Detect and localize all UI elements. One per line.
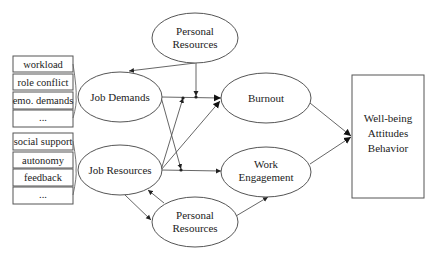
- node-job-demands: Job Demands: [78, 72, 162, 122]
- edge-job-resources-to-pr-bottom: [125, 195, 151, 220]
- resource-item-box: ...: [13, 187, 73, 204]
- demand-item-box: role conflict: [13, 74, 73, 90]
- node-personal-resources-bottom: Personal Resources: [152, 197, 238, 247]
- node-label: Personal: [176, 209, 214, 221]
- demand-item-label: role conflict: [17, 77, 68, 88]
- node-label: Burnout: [248, 92, 284, 104]
- resource-item-label: feedback: [24, 172, 63, 183]
- demand-item-box: ...: [13, 110, 73, 127]
- resource-item-label: ...: [39, 189, 47, 200]
- node-work-engagement: Work Engagement: [221, 147, 311, 197]
- node-burnout: Burnout: [221, 73, 311, 123]
- demand-item-label: workload: [23, 59, 63, 70]
- node-outcomes: Well-being Attitudes Behavior: [352, 75, 424, 198]
- edge-job-resources-to-work-engagement: [161, 170, 221, 171]
- node-job-resources: Job Resources: [78, 145, 162, 195]
- demand-item-box: workload: [13, 56, 73, 72]
- job-resources-items: social support autonomy feedback ...: [13, 133, 76, 204]
- node-label: Resources: [172, 38, 217, 50]
- node-label: Personal: [176, 25, 214, 37]
- resource-item-box: autonomy: [13, 152, 73, 168]
- edge-job-resources-to-burnout: [161, 101, 220, 170]
- demand-item-box: emo. demands: [13, 92, 74, 109]
- job-demands-items: workload role conflict emo. demands ...: [13, 56, 77, 127]
- node-personal-resources-top: Personal Resources: [152, 13, 238, 63]
- edge-pr-bottom-to-work-engagement: [236, 197, 268, 216]
- demand-item-label: ...: [39, 112, 47, 123]
- node-label: Engagement: [239, 171, 294, 183]
- outcome-label: Behavior: [368, 142, 409, 154]
- jd-r-model-diagram: workload role conflict emo. demands ... …: [0, 0, 435, 257]
- edge-pr-top-to-job-demands: [129, 63, 195, 71]
- resource-item-label: autonomy: [22, 155, 65, 166]
- node-label: Work: [254, 158, 279, 170]
- moderation-points: [179, 95, 197, 171]
- node-label: Job Demands: [90, 91, 150, 103]
- node-label: Resources: [172, 222, 217, 234]
- resource-item-box: feedback: [13, 169, 73, 186]
- edge-pr-bottom-to-job-resources: [148, 190, 164, 203]
- edge-work-engagement-to-outcomes: [310, 137, 351, 164]
- outcome-label: Well-being: [364, 112, 413, 124]
- edge-job-demands-to-burnout: [161, 97, 221, 98]
- outcome-label: Attitudes: [368, 127, 408, 139]
- resource-item-label: social support: [14, 136, 73, 147]
- edge-burnout-to-outcomes: [310, 103, 351, 136]
- demand-item-label: emo. demands: [13, 95, 74, 106]
- node-label: Job Resources: [88, 164, 151, 176]
- resource-item-box: social support: [13, 133, 73, 150]
